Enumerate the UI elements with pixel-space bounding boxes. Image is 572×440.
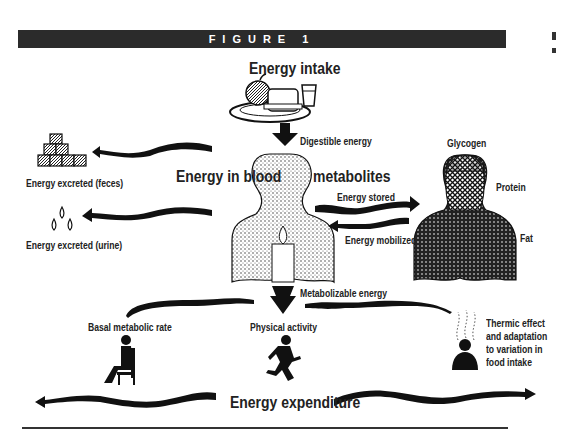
running-person-icon [266,335,301,381]
feces-label: Energy excreted (feces) [26,177,123,189]
glycogen-label: Glycogen [447,137,486,149]
protein-label: Protein [496,181,526,193]
metabolizable-energy-label: Metabolizable energy [300,287,387,299]
branch-to-bmr [126,298,254,318]
bmr-label: Basal metabolic rate [88,321,172,333]
urine-label: Energy excreted (urine) [26,239,122,251]
branch-to-thermic [305,301,452,314]
feces-blocks-icon [38,134,86,166]
metabolites-label: metabolites [313,167,390,187]
down-arrow-icon [272,123,298,146]
arrow-expenditure-left [35,392,216,408]
arrow-to-feces [92,143,212,158]
seated-person-icon [104,335,135,385]
physical-activity-label: Physical activity [250,321,317,333]
energy-mobilized-label: Energy mobilized [345,234,416,246]
down-arrow-metabolizable-icon [270,286,296,314]
urine-drops-icon [52,207,72,230]
heat-person-icon [452,310,478,370]
arrow-energy-mobilized [328,218,409,232]
fat-label: Fat [520,232,533,244]
storage-body-icon [414,155,516,280]
digestible-energy-label: Digestible energy [300,135,372,147]
energy-stored-label: Energy stored [337,191,395,203]
bottom-rule [22,427,508,429]
food-plate-icon [230,74,316,122]
arrow-to-urine [82,207,212,222]
energy-expenditure-label: Energy expenditure [230,393,360,413]
arrow-expenditure-right [334,388,536,406]
energy-intake-label: Energy intake [249,59,340,79]
energy-in-blood-label: Energy in blood [176,167,281,187]
thermic-effect-label: Thermic effect and adaptation to variati… [486,317,547,369]
